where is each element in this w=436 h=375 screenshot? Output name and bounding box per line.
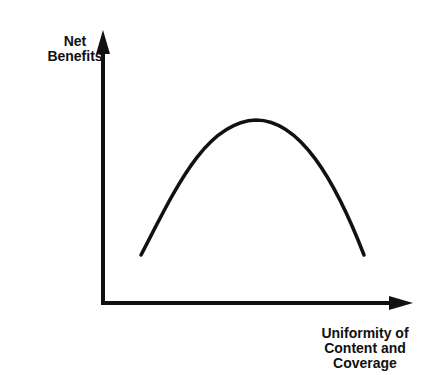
y-axis-label: Net Benefits	[40, 34, 110, 64]
x-axis-label: Uniformity of Content and Coverage	[305, 326, 425, 371]
net-benefits-curve	[141, 120, 364, 255]
y-axis	[96, 30, 110, 305]
y-axis-label-line: Benefits	[40, 49, 110, 64]
x-axis-label-line: Content and	[305, 341, 425, 356]
y-axis-label-line: Net	[40, 34, 110, 49]
x-axis-label-line: Uniformity of	[305, 326, 425, 341]
x-axis	[101, 296, 413, 310]
x-axis-arrowhead	[389, 296, 413, 310]
x-axis-label-line: Coverage	[305, 356, 425, 371]
